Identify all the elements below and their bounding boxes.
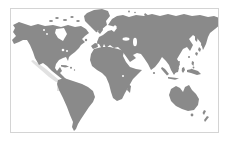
cuba: [61, 65, 69, 67]
great-lake-1: [62, 49, 65, 52]
world-map: [11, 9, 218, 132]
lake-victoria: [122, 75, 124, 77]
lesser-antilles: [74, 69, 75, 70]
great-bear-lake: [43, 29, 45, 31]
ireland: [95, 30, 97, 32]
black-sea: [123, 37, 130, 40]
greenland: [84, 9, 110, 31]
sri-lanka: [153, 72, 155, 74]
hispaniola: [70, 67, 72, 69]
caspian-sea: [133, 38, 137, 46]
hainan: [178, 61, 180, 63]
sulawesi: [182, 67, 185, 73]
south-america: [57, 78, 95, 131]
great-slave-lake: [46, 33, 48, 35]
taiwan: [188, 56, 190, 58]
tasmania: [191, 114, 194, 117]
java: [168, 77, 179, 80]
indonesia: [161, 65, 201, 80]
philippines: [191, 61, 195, 70]
newfoundland: [85, 39, 87, 41]
great-lake-2: [66, 50, 68, 52]
africa: [90, 47, 142, 101]
australia: [169, 85, 199, 111]
caribbean-islands: [61, 65, 75, 71]
japan: [195, 42, 204, 56]
sumatra: [161, 67, 169, 76]
world-map-widget: [10, 8, 219, 133]
new-zealand: [203, 110, 210, 122]
new-guinea: [187, 69, 201, 75]
screen: [0, 0, 229, 141]
north-america: [12, 22, 89, 79]
